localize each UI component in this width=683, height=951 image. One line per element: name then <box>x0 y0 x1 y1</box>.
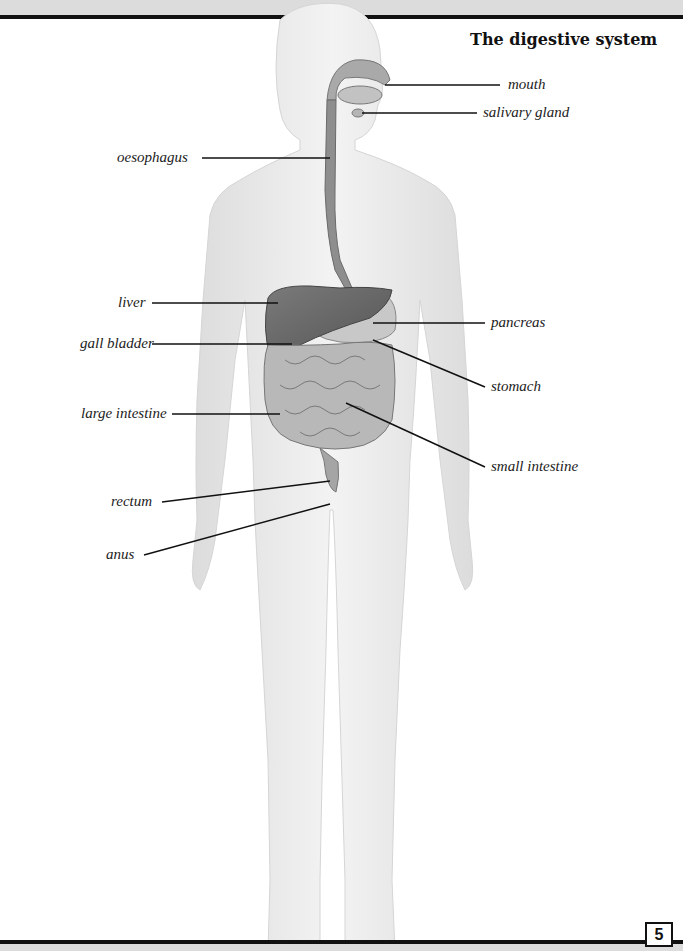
label-mouth: mouth <box>508 75 546 93</box>
label-large-intestine: large intestine <box>81 404 167 422</box>
label-oesophagus: oesophagus <box>117 148 188 166</box>
label-stomach: stomach <box>491 377 541 395</box>
label-liver: liver <box>118 293 146 311</box>
label-anus: anus <box>106 545 134 563</box>
page-number: 5 <box>645 922 673 947</box>
label-rectum: rectum <box>111 492 152 510</box>
label-small-intestine: small intestine <box>491 457 578 475</box>
label-gall-bladder: gall bladder <box>80 334 154 352</box>
label-salivary-gland: salivary gland <box>483 103 569 121</box>
bottom-band <box>0 944 683 951</box>
body-figure <box>0 0 683 951</box>
page-title: The digestive system <box>470 30 657 49</box>
label-pancreas: pancreas <box>491 313 545 331</box>
